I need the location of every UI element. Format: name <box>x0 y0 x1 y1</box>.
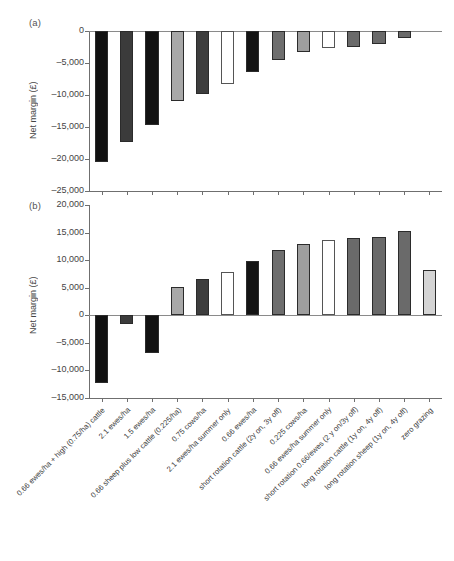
bar[interactable] <box>95 315 108 383</box>
y-tick-label: –15,000 <box>34 121 84 131</box>
bar[interactable] <box>120 315 133 323</box>
x-category-label: 0.66 sheep plus low cattle (0.225/ha) <box>88 405 182 499</box>
x-category-label: short rotation 0.66/ewes (2 y on/3y off) <box>261 405 359 503</box>
x-category-label: short rotation cattle (2y on, 3y off) <box>197 405 283 491</box>
y-tick-label: 5,000 <box>34 282 84 292</box>
x-tick-mark <box>354 191 355 195</box>
x-tick-mark <box>177 191 178 195</box>
x-category-label: long rotation sheep (1y on, 4y off) <box>323 405 409 491</box>
y-tick-label: –20,000 <box>34 153 84 163</box>
y-tick-label: –25,000 <box>34 185 84 195</box>
bar[interactable] <box>297 31 310 52</box>
y-tick-label: –10,000 <box>34 89 84 99</box>
x-category-label: long rotation cattle (1y on, 4y off) <box>300 405 384 489</box>
bar[interactable] <box>347 31 360 47</box>
bar[interactable] <box>145 315 158 352</box>
x-tick-mark <box>127 191 128 195</box>
bar[interactable] <box>398 231 411 315</box>
x-tick-mark <box>228 191 229 195</box>
x-tick-mark <box>354 398 355 402</box>
x-tick-mark <box>429 191 430 195</box>
x-tick-mark <box>202 398 203 402</box>
x-tick-mark <box>228 398 229 402</box>
bar[interactable] <box>171 287 184 316</box>
x-tick-mark <box>379 398 380 402</box>
bar[interactable] <box>398 31 411 38</box>
bar[interactable] <box>221 31 234 84</box>
bar[interactable] <box>272 250 285 316</box>
y-tick-label: 0 <box>34 25 84 35</box>
x-tick-mark <box>404 191 405 195</box>
x-category-label: zero grazing <box>399 405 435 441</box>
bar[interactable] <box>221 272 234 315</box>
x-tick-mark <box>329 191 330 195</box>
x-tick-mark <box>152 398 153 402</box>
y-tick-label: 0 <box>34 309 84 319</box>
bar[interactable] <box>171 31 184 101</box>
y-tick-label: –15,000 <box>34 392 84 402</box>
x-tick-mark <box>127 398 128 402</box>
x-category-label: 1.5 ewes/ha <box>122 405 157 440</box>
x-category-label: 0.66 ewes/ha <box>220 405 258 443</box>
bar[interactable] <box>297 244 310 316</box>
x-tick-mark <box>303 191 304 195</box>
bar[interactable] <box>272 31 285 60</box>
x-tick-mark <box>152 191 153 195</box>
x-tick-mark <box>202 191 203 195</box>
x-category-label: 2.1 ewes/ha <box>97 405 132 440</box>
bar[interactable] <box>196 279 209 315</box>
bar[interactable] <box>246 31 259 72</box>
x-tick-mark <box>102 191 103 195</box>
panel-a-y-axis-title: Net margin (£) <box>28 60 40 160</box>
x-category-label: 0.75 cows/ha <box>169 405 207 443</box>
bar[interactable] <box>423 270 436 315</box>
x-category-label: 0.66 ewes/ha + high (0.75/ha) cattle <box>15 405 107 497</box>
x-category-label: 0.225 cows/ha <box>267 405 308 446</box>
panel-b-baseline <box>89 398 442 399</box>
x-tick-mark <box>177 398 178 402</box>
x-tick-mark <box>379 191 380 195</box>
x-tick-mark <box>253 191 254 195</box>
bar[interactable] <box>322 31 335 48</box>
x-tick-mark <box>429 398 430 402</box>
x-tick-mark <box>278 191 279 195</box>
bar[interactable] <box>372 237 385 315</box>
y-tick-label: –5,000 <box>34 337 84 347</box>
y-tick-label: –5,000 <box>34 57 84 67</box>
y-tick-label: 15,000 <box>34 227 84 237</box>
bar[interactable] <box>372 31 385 44</box>
bar[interactable] <box>347 238 360 315</box>
y-tick-label: 10,000 <box>34 254 84 264</box>
panel-a-bars <box>89 31 442 191</box>
x-tick-mark <box>404 398 405 402</box>
y-tick-label: –10,000 <box>34 364 84 374</box>
x-category-label: 2.1 ewes/ha summer only <box>165 406 233 474</box>
bar[interactable] <box>246 261 259 315</box>
x-tick-mark <box>253 398 254 402</box>
bar[interactable] <box>322 240 335 316</box>
panel-a-baseline <box>89 191 442 192</box>
bar[interactable] <box>196 31 209 94</box>
panel-b-bars <box>89 205 442 398</box>
x-tick-mark <box>303 398 304 402</box>
x-tick-mark <box>329 398 330 402</box>
bar[interactable] <box>120 31 133 142</box>
y-tick-label: 20,000 <box>34 199 84 209</box>
x-tick-mark <box>278 398 279 402</box>
x-category-label: 0.66 ewes/ha summer only <box>263 405 334 476</box>
bar[interactable] <box>95 31 108 162</box>
bar[interactable] <box>145 31 158 125</box>
x-tick-mark <box>102 398 103 402</box>
figure-root: (a) Net margin (£) 0–5,000–10,000–15,000… <box>0 0 454 561</box>
